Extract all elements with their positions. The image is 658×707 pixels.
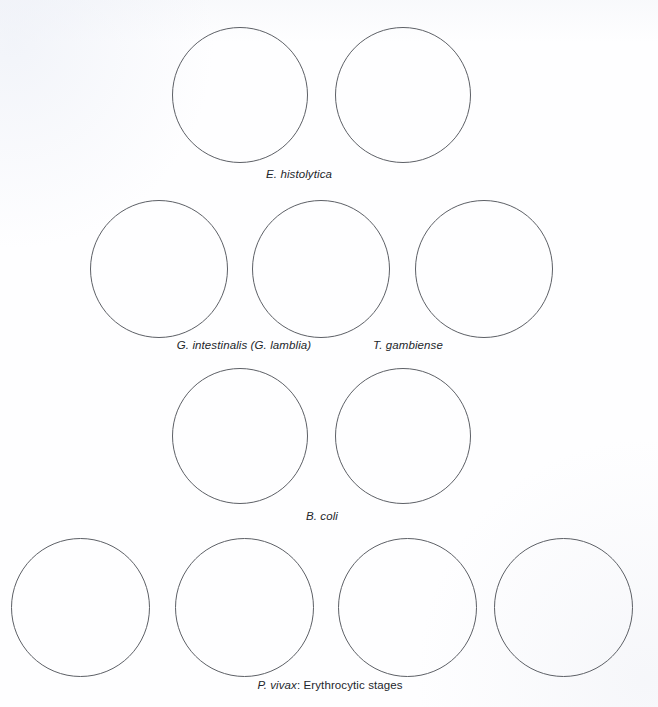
organism-circle bbox=[172, 368, 308, 504]
organism-circle bbox=[90, 200, 228, 338]
caption-e-histolytica: E. histolytica bbox=[266, 168, 332, 180]
caption-stage-text: : Erythrocytic stages bbox=[297, 679, 403, 691]
caption-g-intestinalis: G. intestinalis (G. lamblia) bbox=[177, 339, 311, 351]
caption-t-gambiense: T. gambiense bbox=[373, 339, 443, 351]
organism-circle bbox=[11, 538, 150, 677]
caption-b-coli: B. coli bbox=[306, 510, 338, 522]
caption-p-vivax: P. vivax: Erythrocytic stages bbox=[257, 679, 402, 691]
organism-circle bbox=[335, 27, 471, 163]
organism-circle bbox=[415, 200, 553, 338]
caption-scientific-name: P. vivax bbox=[257, 679, 297, 691]
organism-circle bbox=[172, 27, 308, 163]
organism-circle bbox=[252, 200, 390, 338]
organism-size-comparison-figure: E. histolytica G. intestinalis (G. lambl… bbox=[0, 0, 658, 707]
caption-scientific-name: E. histolytica bbox=[266, 168, 332, 180]
organism-circle bbox=[338, 538, 477, 677]
caption-scientific-name: T. gambiense bbox=[373, 339, 443, 351]
caption-scientific-name: B. coli bbox=[306, 510, 338, 522]
organism-circle bbox=[335, 368, 471, 504]
organism-circle bbox=[494, 538, 633, 677]
caption-scientific-name: G. intestinalis (G. lamblia) bbox=[177, 339, 311, 351]
organism-circle bbox=[175, 538, 314, 677]
